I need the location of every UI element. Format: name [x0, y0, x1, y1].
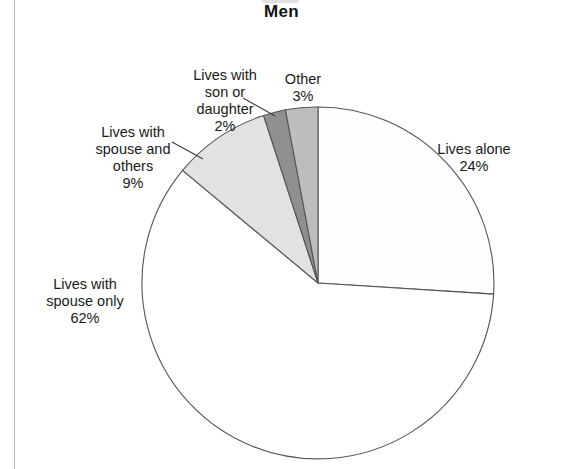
- slice-label-lives-alone-pct: 24%: [404, 158, 544, 175]
- pie-chart-figure: Men Lives alone 24% Lives with spouse on…: [0, 0, 563, 469]
- slice-label-lives-alone: Lives alone 24%: [404, 124, 544, 192]
- slice-label-lives-alone-name: Lives alone: [437, 141, 510, 157]
- slice-label-spouse-only-pct: 62%: [10, 310, 160, 327]
- slice-label-son-or-daughter-name: Lives with son or daughter: [193, 67, 257, 117]
- slice-label-spouse-and-others-name: Lives with spouse and others: [96, 124, 171, 174]
- slice-label-spouse-only-name: Lives with spouse only: [46, 276, 123, 309]
- slice-label-other-name: Other: [285, 71, 321, 87]
- slice-label-spouse-and-others-pct: 9%: [73, 175, 193, 192]
- slice-label-other-pct: 3%: [258, 88, 348, 105]
- slice-label-spouse-only: Lives with spouse only 62%: [10, 259, 160, 344]
- slice-label-other: Other 3%: [258, 54, 348, 122]
